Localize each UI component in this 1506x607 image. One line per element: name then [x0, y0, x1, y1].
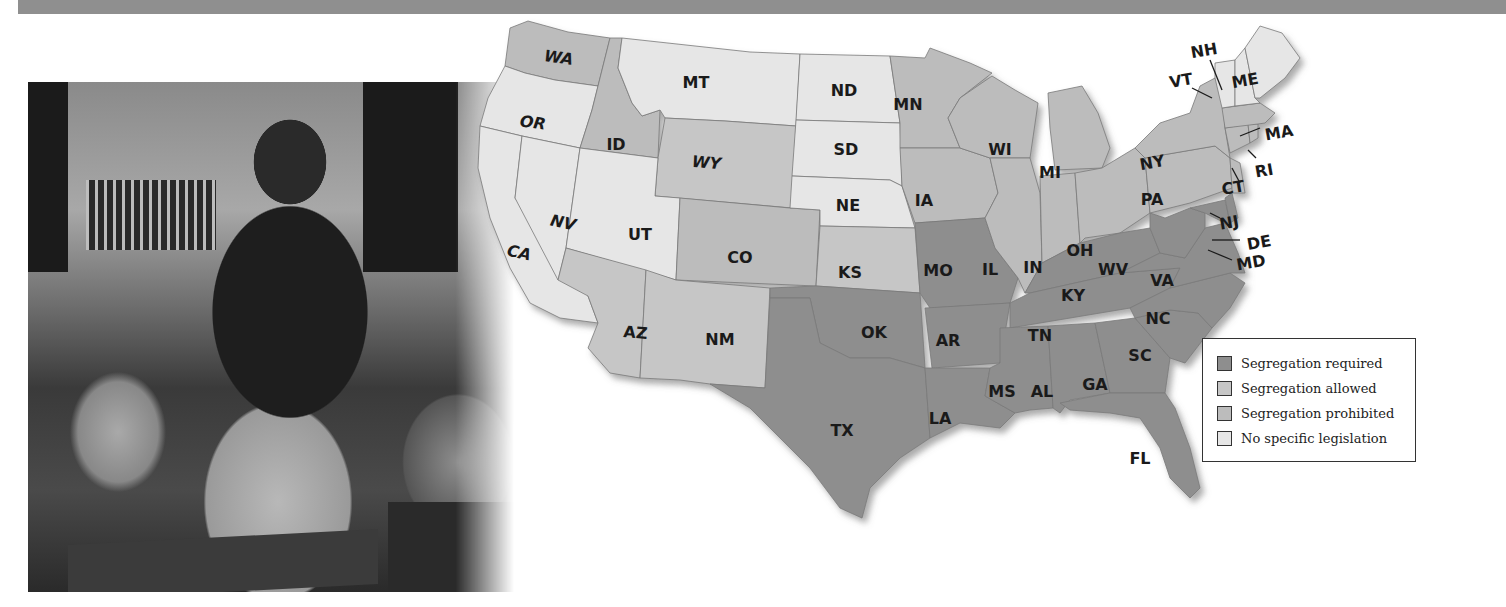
label-WA: WA	[543, 46, 575, 69]
label-UT: UT	[628, 225, 652, 244]
label-AL: AL	[1031, 382, 1054, 401]
swatch-none	[1217, 431, 1232, 446]
state-NM[interactable]	[640, 270, 770, 388]
label-PA: PA	[1141, 190, 1164, 209]
state-KS[interactable]	[816, 226, 920, 293]
label-CO: CO	[727, 248, 752, 267]
photo-door-right	[363, 82, 458, 272]
state-IA[interactable]	[900, 148, 998, 223]
label-AZ: AZ	[623, 322, 649, 343]
photo-bookshelf	[86, 180, 216, 250]
label-GA: GA	[1082, 375, 1108, 394]
label-LA: LA	[929, 409, 952, 428]
label-FL: FL	[1129, 449, 1150, 468]
label-NH: NH	[1189, 39, 1219, 62]
legend-label: Segregation required	[1241, 356, 1383, 371]
label-NM: NM	[705, 330, 734, 349]
label-NJ: NJ	[1218, 212, 1240, 234]
label-ND: ND	[831, 81, 858, 100]
label-IA: IA	[915, 191, 934, 210]
header-band	[18, 0, 1506, 14]
state-MI[interactable]	[1048, 86, 1110, 170]
us-map: WA OR CA ID NV MT WY UT CO AZ NM ND SD N…	[470, 18, 1230, 528]
label-MI: MI	[1039, 163, 1061, 182]
label-KY: KY	[1061, 286, 1085, 305]
swatch-required	[1217, 356, 1232, 371]
label-MN: MN	[893, 95, 922, 114]
label-WI: WI	[988, 140, 1012, 159]
photo-door-left	[28, 82, 68, 272]
label-SD: SD	[834, 140, 859, 159]
label-OK: OK	[861, 323, 888, 342]
swatch-prohibited	[1217, 406, 1232, 421]
classroom-photo	[28, 82, 514, 592]
label-IL: IL	[982, 260, 998, 279]
label-MT: MT	[683, 73, 710, 92]
label-VT: VT	[1168, 69, 1194, 92]
state-RI[interactable]	[1248, 124, 1258, 143]
legend-label: Segregation allowed	[1241, 381, 1377, 396]
label-ID: ID	[606, 135, 625, 154]
label-MS: MS	[988, 382, 1015, 401]
label-WV: WV	[1098, 260, 1129, 279]
map-legend: Segregation required Segregation allowed…	[1202, 338, 1416, 462]
state-CO[interactable]	[676, 198, 820, 286]
label-OH: OH	[1067, 241, 1094, 260]
label-RI: RI	[1253, 160, 1274, 182]
state-NY[interactable]	[1135, 78, 1230, 158]
state-WY[interactable]	[655, 118, 796, 208]
legend-item-required: Segregation required	[1217, 351, 1415, 376]
label-NE: NE	[836, 196, 860, 215]
label-MO: MO	[923, 261, 953, 280]
label-VA: VA	[1150, 271, 1174, 290]
label-AR: AR	[936, 331, 961, 350]
photo-desk	[68, 529, 378, 592]
legend-label: Segregation prohibited	[1241, 406, 1394, 421]
label-SC: SC	[1128, 346, 1151, 365]
label-KS: KS	[838, 263, 862, 282]
legend-label: No specific legislation	[1241, 431, 1387, 446]
legend-item-none: No specific legislation	[1217, 426, 1415, 451]
swatch-allowed	[1217, 381, 1232, 396]
state-FL[interactable]	[1060, 393, 1200, 498]
label-TX: TX	[830, 421, 854, 440]
label-IN: IN	[1023, 258, 1042, 277]
label-MD: MD	[1235, 251, 1267, 275]
label-TN: TN	[1028, 326, 1052, 345]
legend-item-allowed: Segregation allowed	[1217, 376, 1415, 401]
label-CT: CT	[1220, 176, 1246, 199]
label-OR: OR	[519, 111, 547, 133]
label-NC: NC	[1145, 309, 1170, 328]
legend-item-prohibited: Segregation prohibited	[1217, 401, 1415, 426]
label-WY: WY	[691, 152, 723, 174]
state-CT[interactable]	[1225, 124, 1250, 153]
label-MA: MA	[1263, 121, 1295, 145]
